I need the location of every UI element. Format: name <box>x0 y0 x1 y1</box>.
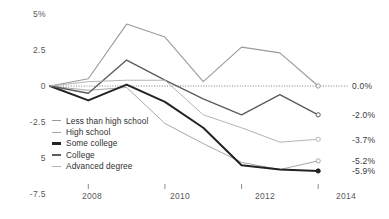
legend-item-college: College <box>52 149 192 160</box>
x-tick-label-2012: 2012 <box>243 191 287 201</box>
legend-line-swatch-icon <box>52 132 61 133</box>
legend-label: High school <box>66 127 110 137</box>
x-tick-label-2008: 2008 <box>70 191 114 201</box>
end-label-some-college: -5.9% <box>352 166 375 176</box>
chart-legend: Less than high school High school Some c… <box>52 115 192 172</box>
legend-item-high-school: High school <box>52 126 192 137</box>
end-label-less-than-high-school: 0.0% <box>352 81 372 91</box>
legend-line-swatch-icon <box>52 166 61 167</box>
legend-line-swatch-icon <box>52 142 61 144</box>
series-end-markers <box>316 84 320 173</box>
x-axis-tick-marks <box>88 184 318 189</box>
y-tick-label-2: 0 <box>6 81 46 91</box>
y-tick-label-5: -7.5 <box>6 189 46 199</box>
y-tick-label-1: 2.5 <box>6 45 46 55</box>
x-tick-label-2014: 2014 <box>324 191 368 201</box>
line-chart: 5% 2.5 0 -2.5 5 -7.5 2008 2010 2012 2014… <box>0 0 389 219</box>
legend-item-advanced-degree: Advanced degree <box>52 161 192 172</box>
legend-line-swatch-icon <box>52 154 61 156</box>
end-label-advanced-degree: -3.7% <box>352 135 375 145</box>
y-tick-label-3: -2.5 <box>6 117 46 127</box>
legend-label: College <box>66 150 95 160</box>
legend-label: Some college <box>66 138 117 148</box>
legend-label: Less than high school <box>66 116 148 126</box>
y-tick-label-0: 5% <box>6 9 46 19</box>
legend-line-swatch-icon <box>52 120 61 121</box>
plot-area <box>0 0 389 219</box>
end-label-high-school: -5.2% <box>352 156 375 166</box>
x-tick-label-2010: 2010 <box>158 191 202 201</box>
legend-label: Advanced degree <box>66 161 133 171</box>
end-label-college: -2.0% <box>352 110 375 120</box>
y-tick-label-4: 5 <box>6 153 46 163</box>
legend-item-less-than-high-school: Less than high school <box>52 115 192 126</box>
legend-item-some-college: Some college <box>52 138 192 149</box>
